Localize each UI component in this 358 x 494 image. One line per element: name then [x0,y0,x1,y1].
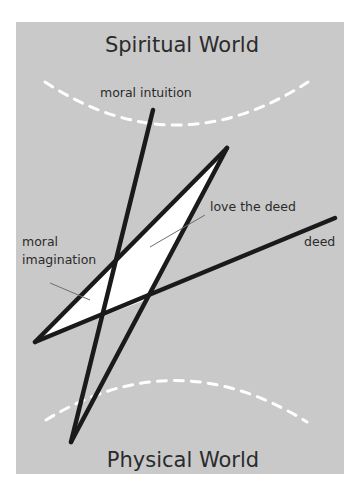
physical-world-title: Physical World [107,448,259,472]
deed-label: deed [304,234,335,249]
love-the-deed-label: love the deed [210,199,296,214]
spiritual-world-title: Spiritual World [105,33,259,57]
moral-imagination-label-line1: moral [22,234,58,249]
moral-imagination-label-line2: imagination [22,252,96,267]
moral-intuition-label: moral intuition [100,85,192,100]
moral-action-diagram: Spiritual World Physical World moral int… [0,0,358,494]
